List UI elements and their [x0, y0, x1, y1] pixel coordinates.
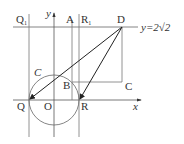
- label-a: A: [66, 13, 74, 25]
- geometry-diagram: Q1 y A R1 D y=2√2 C B C Q O R x: [0, 0, 184, 144]
- label-q1: Q1: [16, 13, 27, 26]
- label-r: R: [81, 100, 89, 112]
- label-b: B: [63, 79, 70, 91]
- arrow-d-to-r: [80, 27, 122, 99]
- label-r1: R1: [81, 13, 91, 26]
- label-c: C: [125, 80, 132, 92]
- label-y-axis: y: [45, 7, 51, 19]
- label-o: O: [44, 100, 52, 112]
- label-x-axis: x: [132, 100, 138, 112]
- label-d: D: [117, 13, 125, 25]
- label-line-equation: y=2√2: [140, 21, 171, 33]
- label-curve-c: C: [34, 66, 42, 78]
- label-q: Q: [17, 100, 25, 112]
